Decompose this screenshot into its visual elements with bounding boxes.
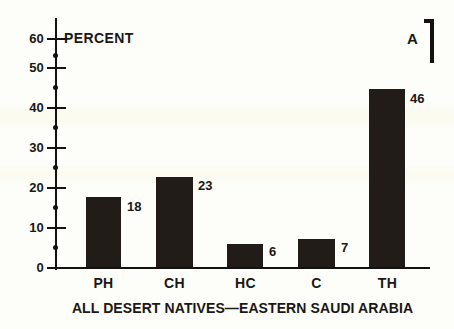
y-tick-minor-35 xyxy=(53,125,58,130)
y-tick-label-40-wrap: 40 xyxy=(14,101,44,114)
bar-th xyxy=(369,89,405,267)
y-tick-label-0: 0 xyxy=(18,261,44,274)
y-axis-title: PERCENT xyxy=(64,30,134,46)
y-tick-label-30-wrap: 30 xyxy=(14,141,44,154)
bar-value-c: 7 xyxy=(341,241,348,254)
y-tick-label-50: 50 xyxy=(18,61,44,74)
x-tick-label-ch: CH xyxy=(147,275,202,291)
y-tick-label-10-wrap: 10 xyxy=(14,221,44,234)
bar-chart-plot-area: 0 10 20 30 40 50 60 xyxy=(0,0,454,329)
panel-corner-bracket xyxy=(424,19,434,63)
panel-label: A xyxy=(407,30,418,47)
y-tick-major-30 xyxy=(47,147,66,149)
bar-value-th: 46 xyxy=(410,92,424,105)
panel-corner-vertical xyxy=(430,19,434,63)
y-tick-major-0 xyxy=(47,267,66,269)
x-axis-line xyxy=(55,267,430,269)
y-tick-major-10 xyxy=(47,227,66,229)
y-tick-label-60: 60 xyxy=(18,32,44,45)
y-tick-major-40 xyxy=(47,107,66,109)
bar-value-hc: 6 xyxy=(269,245,276,258)
y-tick-label-30: 30 xyxy=(18,141,44,154)
y-tick-label-10: 10 xyxy=(18,221,44,234)
bar-hc xyxy=(227,244,263,267)
y-tick-label-0-wrap: 0 xyxy=(14,261,44,274)
bar-value-ph: 18 xyxy=(127,200,141,213)
y-tick-label-60-wrap: 60 xyxy=(14,32,44,45)
bar-c xyxy=(298,239,335,267)
y-tick-major-50 xyxy=(47,67,66,69)
chart-screenshot: 0 10 20 30 40 50 60 xyxy=(0,0,454,329)
y-tick-label-20-wrap: 20 xyxy=(14,181,44,194)
y-tick-label-40: 40 xyxy=(18,101,44,114)
y-tick-minor-5 xyxy=(53,245,58,250)
y-tick-minor-15 xyxy=(53,205,58,210)
x-tick-label-th: TH xyxy=(360,275,415,291)
y-tick-minor-55 xyxy=(53,53,58,58)
bar-ph xyxy=(86,197,121,267)
x-axis-title: ALL DESERT NATIVES—EASTERN SAUDI ARABIA xyxy=(55,300,430,316)
bar-ch xyxy=(156,177,193,267)
y-tick-major-20 xyxy=(47,187,66,189)
x-tick-label-c: C xyxy=(289,275,344,291)
bar-value-ch: 23 xyxy=(198,179,212,192)
y-tick-label-50-wrap: 50 xyxy=(14,61,44,74)
x-tick-label-hc: HC xyxy=(218,275,273,291)
y-tick-minor-45 xyxy=(53,85,58,90)
x-tick-label-ph: PH xyxy=(76,275,131,291)
y-tick-minor-25 xyxy=(53,165,58,170)
y-tick-label-20: 20 xyxy=(18,181,44,194)
